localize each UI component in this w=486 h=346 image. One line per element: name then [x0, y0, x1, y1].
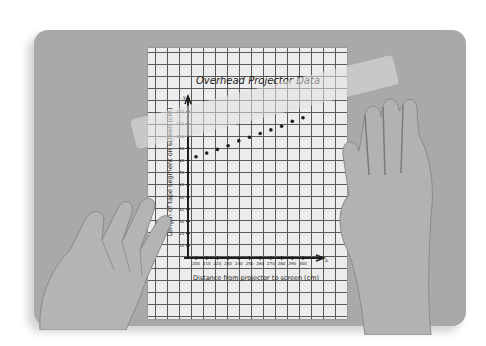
right-hand: [335, 95, 455, 335]
x-tick-label: 290: [288, 261, 296, 266]
data-point: [301, 116, 305, 120]
svg-text:x: x: [325, 257, 328, 263]
svg-text:y: y: [183, 94, 186, 101]
x-tick-label: 250: [246, 261, 254, 266]
data-point: [258, 132, 262, 136]
x-tick-label: 270: [267, 261, 275, 266]
data-point: [237, 139, 241, 143]
x-axis-label-text: Distance from projector to screen (cm): [193, 274, 319, 282]
x-tick-label: 200: [192, 261, 200, 266]
x-tick-label: 220: [214, 261, 222, 266]
data-point: [226, 144, 230, 148]
x-tick-label: 210: [203, 261, 211, 266]
x-tick-label: 240: [235, 261, 243, 266]
data-point: [205, 151, 209, 155]
x-tick-label: 300: [299, 261, 307, 266]
data-point: [269, 128, 273, 132]
y-tick-label: 90: [179, 146, 185, 151]
data-point: [291, 120, 295, 124]
data-point: [194, 155, 198, 159]
data-point: [280, 124, 284, 128]
left-hand: [30, 180, 190, 330]
data-point: [216, 148, 220, 152]
x-tick-label: 230: [224, 261, 232, 266]
x-tick-label: 280: [278, 261, 286, 266]
y-tick-label: 80: [179, 158, 185, 163]
data-point: [248, 135, 252, 139]
x-tick-label: 260: [256, 261, 264, 266]
y-tick-label: 70: [179, 170, 185, 175]
